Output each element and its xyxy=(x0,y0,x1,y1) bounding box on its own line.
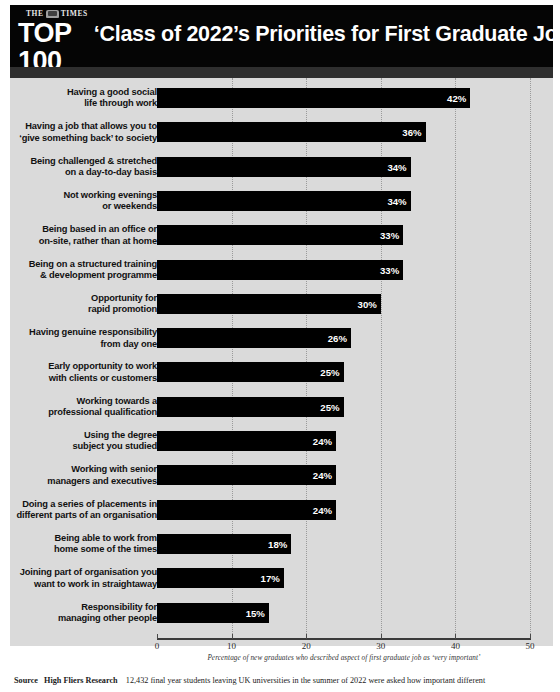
x-axis-tick-label-0: 0 xyxy=(155,641,160,651)
bar: 24% xyxy=(157,465,336,485)
bar-value-label: 42% xyxy=(447,93,466,104)
bar-value-label: 24% xyxy=(313,436,332,447)
bar-value-label: 25% xyxy=(320,401,339,412)
bar-value-label: 30% xyxy=(358,298,377,309)
category-label: Responsibility formanaging other people xyxy=(0,601,157,624)
bar: 30% xyxy=(157,294,381,314)
chart-row: Having a job that allows you to‘give som… xyxy=(10,120,553,144)
header-shadow-band xyxy=(10,67,553,78)
chart-row: Having a good sociallife through work42% xyxy=(10,86,553,110)
source-label: Source xyxy=(14,676,38,685)
category-label: Working towards aprofessional qualificat… xyxy=(0,395,157,418)
category-label: Early opportunity to workwith clients or… xyxy=(0,361,157,384)
chart-row: Working towards aprofessional qualificat… xyxy=(10,395,553,419)
x-axis-tick-20 xyxy=(306,634,307,639)
bar-value-label: 34% xyxy=(387,195,406,206)
chart-page: THE TIMES TOP 100 GRADUATE EMPLOYERS ‘Cl… xyxy=(0,0,560,692)
bar-value-label: 17% xyxy=(261,573,280,584)
chart-row: Joining part of organisation youwant to … xyxy=(10,566,553,590)
bar-value-label: 15% xyxy=(246,607,265,618)
source-description: 12,432 final year students leaving UK un… xyxy=(126,676,485,685)
chart-panel: Having a good sociallife through work42%… xyxy=(10,78,553,646)
category-label: Having a good sociallife through work xyxy=(0,87,157,110)
category-label: Using the degreesubject you studied xyxy=(0,430,157,453)
x-axis-tick-40 xyxy=(455,634,456,639)
masthead-times-label: TIMES xyxy=(61,9,88,18)
times-crest-icon xyxy=(46,10,59,18)
page-title: ‘Class of 2022’s Priorities for First Gr… xyxy=(88,5,560,67)
bar-value-label: 33% xyxy=(380,230,399,241)
category-label: Being based in an office oron-site, rath… xyxy=(0,224,157,247)
bar: 34% xyxy=(157,191,411,211)
bar-value-label: 18% xyxy=(268,538,287,549)
chart-row: Being challenged & stretchedon a day-to-… xyxy=(10,155,553,179)
x-axis-caption: Percentage of new graduates who describe… xyxy=(157,654,531,662)
times-top100-logo: THE TIMES TOP 100 GRADUATE EMPLOYERS xyxy=(10,5,88,67)
category-label: Joining part of organisation youwant to … xyxy=(0,567,157,590)
chart-row: Using the degreesubject you studied24% xyxy=(10,429,553,453)
bar-value-label: 24% xyxy=(313,470,332,481)
x-axis-line xyxy=(157,638,531,640)
bar: 26% xyxy=(157,328,351,348)
bar: 24% xyxy=(157,500,336,520)
x-axis-tick-label-30: 30 xyxy=(376,641,385,651)
bar-value-label: 33% xyxy=(380,264,399,275)
bar: 25% xyxy=(157,362,344,382)
chart-row: Not working eveningsor weekends34% xyxy=(10,189,553,213)
masthead-the-label: THE xyxy=(26,9,44,18)
bar-value-label: 24% xyxy=(313,504,332,515)
chart-row: Early opportunity to workwith clients or… xyxy=(10,360,553,384)
chart-row: Having genuine responsibilityfrom day on… xyxy=(10,326,553,350)
category-label: Being challenged & stretchedon a day-to-… xyxy=(0,155,157,178)
chart-row: Being able to work fromhome some of the … xyxy=(10,532,553,556)
bar: 15% xyxy=(157,603,269,623)
bar: 34% xyxy=(157,157,411,177)
x-axis-tick-50 xyxy=(530,634,531,639)
x-axis-tick-label-10: 10 xyxy=(227,641,236,651)
chart-row: Being based in an office oron-site, rath… xyxy=(10,223,553,247)
bar: 42% xyxy=(157,88,470,108)
chart-header: THE TIMES TOP 100 GRADUATE EMPLOYERS ‘Cl… xyxy=(10,5,553,67)
bar-value-label: 26% xyxy=(328,333,347,344)
category-label: Not working eveningsor weekends xyxy=(0,189,157,212)
category-label: Opportunity forrapid promotion xyxy=(0,292,157,315)
x-axis-tick-30 xyxy=(381,634,382,639)
bar: 33% xyxy=(157,260,403,280)
x-axis-tick-label-20: 20 xyxy=(302,641,311,651)
category-label: Having genuine responsibilityfrom day on… xyxy=(0,327,157,350)
category-label: Being able to work fromhome some of the … xyxy=(0,532,157,555)
chart-row: Responsibility formanaging other people1… xyxy=(10,601,553,625)
bar: 33% xyxy=(157,225,403,245)
chart-row: Doing a series of placements indifferent… xyxy=(10,498,553,522)
x-axis-tick-0 xyxy=(157,634,158,639)
masthead-top-row: THE TIMES xyxy=(26,9,88,18)
bar-value-label: 36% xyxy=(402,127,421,138)
chart-row: Being on a structured training& developm… xyxy=(10,258,553,282)
category-label: Having a job that allows you to‘give som… xyxy=(0,121,157,144)
category-label: Being on a structured training& developm… xyxy=(0,258,157,281)
source-note: Source High Fliers Research 12,432 final… xyxy=(14,676,554,685)
chart-row: Opportunity forrapid promotion30% xyxy=(10,292,553,316)
bar-value-label: 34% xyxy=(387,161,406,172)
bar-value-label: 25% xyxy=(320,367,339,378)
category-label: Working with seniormanagers and executiv… xyxy=(0,464,157,487)
bar: 17% xyxy=(157,568,284,588)
source-organisation: High Fliers Research xyxy=(44,676,118,685)
category-label: Doing a series of placements indifferent… xyxy=(0,498,157,521)
chart-row: Working with seniormanagers and executiv… xyxy=(10,463,553,487)
x-axis-tick-label-40: 40 xyxy=(451,641,460,651)
x-axis-tick-10 xyxy=(232,634,233,639)
bar: 18% xyxy=(157,534,291,554)
bar: 36% xyxy=(157,122,426,142)
bar: 25% xyxy=(157,397,344,417)
bar: 24% xyxy=(157,431,336,451)
x-axis-tick-label-50: 50 xyxy=(526,641,535,651)
